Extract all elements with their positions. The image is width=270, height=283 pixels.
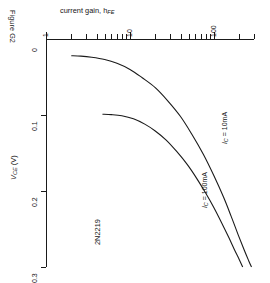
x-axis-tick-label: 100: [210, 25, 217, 37]
chart-title-subscript: FE: [107, 9, 114, 15]
curve-label-ic-10ma: IC = 10mA: [221, 112, 229, 144]
curve-label-1-subscript: C: [203, 203, 209, 207]
x-axis-tick-label: 10: [126, 29, 133, 37]
y-axis-tick-label: 0.2: [31, 197, 38, 207]
curve-label-0-main: I: [221, 142, 228, 144]
curve-label-ic-100ma: IC = 100mA: [201, 172, 209, 208]
figure-caption: Figure G2: [8, 0, 17, 55]
plot-area: 110100 00.10.20.3 VCE (V) IC = 10mA IC =…: [46, 39, 254, 267]
curve-label-0-rest: = 10mA: [221, 112, 228, 138]
x-axis-tick-label: 1: [42, 33, 49, 37]
y-axis-title: VCE (V): [9, 156, 18, 181]
curve-plot: [46, 39, 254, 267]
y-axis-title-subscript: CE: [12, 167, 18, 175]
y-axis-tick: [41, 267, 46, 268]
y-axis-tick-label: 0.1: [31, 121, 38, 131]
y-axis-title-unit: (V): [9, 156, 18, 168]
y-axis-tick-label: 0: [31, 48, 38, 52]
device-label: 2N2219: [93, 219, 102, 245]
chart-title-text: current gain, h: [60, 6, 107, 15]
y-axis-title-main: V: [9, 175, 18, 180]
x-axis-minor-tick: [254, 34, 255, 39]
curve-label-0-subscript: C: [223, 138, 229, 142]
curve-label-1-rest: = 100mA: [201, 172, 208, 202]
y-axis-tick-label: 0.3: [31, 273, 38, 283]
chart-title: current gain, hFE: [60, 6, 250, 15]
